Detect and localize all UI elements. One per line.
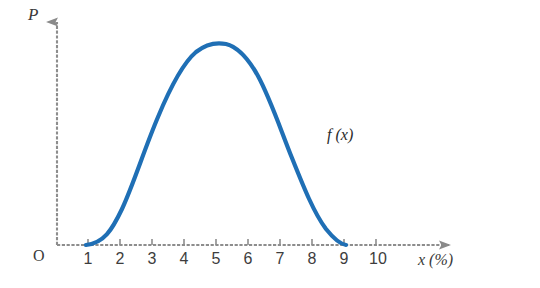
x-tick-label-3: 3 xyxy=(148,251,157,267)
x-tick-label-2: 2 xyxy=(116,251,125,267)
x-tick-label-5: 5 xyxy=(212,251,221,267)
curve-annotation-label: f (x) xyxy=(327,127,353,143)
origin-label: O xyxy=(33,248,45,264)
chart-canvas xyxy=(0,0,540,288)
x-axis-title: x (%) xyxy=(418,252,453,268)
x-tick-label-7: 7 xyxy=(276,251,285,267)
x-tick-label-10: 10 xyxy=(369,251,387,267)
x-tick-label-1: 1 xyxy=(84,251,93,267)
bell-curve-figure: P x (%) O f (x) 1 2 3 4 5 6 7 8 9 10 xyxy=(0,0,540,288)
x-tick-label-6: 6 xyxy=(244,251,253,267)
x-tick-label-4: 4 xyxy=(180,251,189,267)
distribution-curve xyxy=(86,43,346,245)
curve-path xyxy=(86,43,346,245)
x-tick-label-8: 8 xyxy=(308,251,317,267)
y-axis-title: P xyxy=(28,6,38,23)
x-tick-label-9: 9 xyxy=(340,251,349,267)
